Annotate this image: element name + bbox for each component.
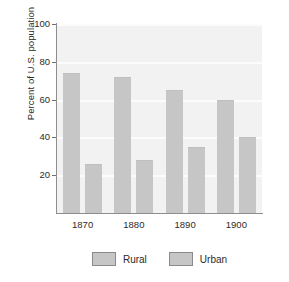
bar-rural-1880 — [114, 77, 131, 213]
x-axis-line — [56, 213, 263, 214]
legend-item-urban: Urban — [169, 252, 227, 266]
y-tick-label: 100 — [22, 18, 50, 29]
y-tick-label: 60 — [22, 94, 50, 105]
gridline — [57, 62, 262, 64]
x-tick-label: 1900 — [206, 219, 266, 230]
legend-swatch-rural — [92, 252, 116, 266]
bar-urban-1870 — [85, 164, 102, 213]
gridline — [57, 24, 262, 26]
legend-swatch-urban — [169, 252, 193, 266]
legend-label-rural: Rural — [123, 254, 147, 265]
bar-rural-1890 — [166, 90, 183, 213]
bar-urban-1890 — [188, 147, 205, 213]
chart-legend: Rural Urban — [57, 247, 262, 271]
bar-urban-1880 — [136, 160, 153, 213]
y-tick-label: 80 — [22, 56, 50, 67]
y-axis-tick-labels: 20 40 60 80 100 — [16, 0, 50, 282]
legend-label-urban: Urban — [200, 254, 227, 265]
y-axis-line — [56, 23, 57, 214]
bar-rural-1900 — [217, 100, 234, 213]
y-tick-label: 20 — [22, 169, 50, 180]
y-tick-label: 40 — [22, 131, 50, 142]
legend-item-rural: Rural — [92, 252, 147, 266]
plot-area — [57, 24, 262, 213]
bar-chart-figure: Percent of U.S. population 20 40 60 80 1… — [0, 0, 289, 282]
bar-rural-1870 — [63, 73, 80, 213]
bar-urban-1900 — [239, 137, 256, 213]
